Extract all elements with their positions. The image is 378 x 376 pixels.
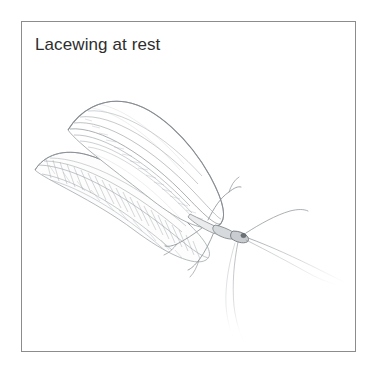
- antenna-upper-right: [246, 210, 308, 234]
- filament-right-second: [246, 240, 335, 284]
- filament-right-long: [248, 238, 344, 282]
- filament-down-long: [233, 242, 244, 342]
- foreleg-tarsus: [229, 177, 239, 192]
- figure-caption: Lacewing at rest: [35, 34, 160, 56]
- lacewing-illustration: [22, 22, 357, 353]
- filament-down-second: [226, 243, 235, 337]
- figure-card: Lacewing at rest: [21, 21, 356, 352]
- eye: [241, 233, 246, 237]
- antennae-group: [226, 210, 344, 343]
